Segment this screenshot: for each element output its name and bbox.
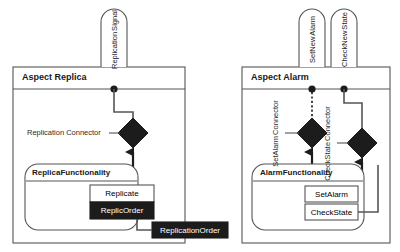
checkstate-connector-label: CheckState Connector	[310, 120, 344, 166]
replication-signal-label: Replication Signal	[95, 14, 133, 64]
alarm-functionality-title: AlarmFunctionality	[260, 169, 332, 177]
replic-order-label: ReplicOrder	[101, 206, 144, 215]
checkstate-connector-line2: Connector	[323, 106, 332, 141]
checknew-state-line2: State	[340, 12, 349, 30]
replication-signal-line2: Signal	[110, 10, 119, 31]
setnew-alarm-port	[308, 85, 315, 92]
replicate-label: Replicate	[105, 189, 138, 198]
aspect-replica-title: Aspect Replica	[22, 73, 87, 82]
replica-functionality-title: ReplicaFunctionality	[32, 169, 110, 177]
checknew-state-label: CheckNew State	[325, 14, 363, 64]
replication-signal-line1: Replication	[110, 31, 119, 68]
replicate-label-wrap: Replicate	[90, 185, 154, 202]
replication-order-label: ReplicationOrder	[160, 226, 220, 235]
aspect-alarm-title: Aspect Alarm	[251, 73, 309, 82]
setnew-alarm-line1: SetNew	[308, 36, 317, 62]
diagram-canvas: Aspect Replica Replication Signal Replic…	[0, 0, 400, 252]
setnew-alarm-line2: Alarm	[308, 16, 317, 36]
setalarm-connector-line1: SetAlarm	[271, 135, 280, 166]
replication-connector-label: Replication Connector	[27, 129, 101, 137]
setalarm-label: SetAlarm	[315, 190, 348, 199]
setalarm-label-wrap: SetAlarm	[305, 186, 358, 202]
checkstate-label-wrap: CheckState	[305, 204, 358, 220]
checknew-state-line1: CheckNew	[340, 30, 349, 66]
setalarm-connector-label: SetAlarm Connector	[258, 110, 292, 156]
checkstate-label: CheckState	[311, 208, 352, 217]
replication-order-label-wrap: ReplicationOrder	[152, 222, 228, 238]
replic-order-label-wrap: ReplicOrder	[90, 202, 154, 219]
setalarm-connector-line2: Connector	[271, 100, 280, 135]
